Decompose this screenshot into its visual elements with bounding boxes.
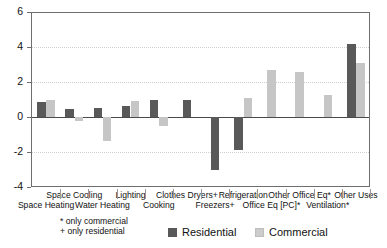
legend-swatch-residential-icon — [168, 228, 177, 237]
legend-item-residential: Residential — [168, 226, 236, 238]
x-category-label: Ventilation* — [248, 200, 387, 210]
bar-commercial — [356, 63, 365, 117]
bar-residential — [65, 109, 74, 117]
bar-commercial — [267, 70, 276, 117]
bars-layer — [0, 0, 387, 248]
x-category-divider — [342, 189, 343, 199]
x-category-divider — [370, 189, 371, 199]
bar-commercial — [103, 117, 112, 141]
footnotes: * only commercial + only residential — [60, 216, 128, 236]
legend-label-commercial: Commercial — [269, 226, 328, 238]
bar-commercial — [131, 101, 140, 117]
bar-commercial — [295, 72, 304, 118]
footnote-residential: + only residential — [60, 226, 128, 236]
footnote-commercial: * only commercial — [60, 216, 128, 226]
bar-residential — [211, 117, 220, 170]
bar-residential — [150, 100, 159, 117]
bar-commercial — [324, 95, 333, 117]
bar-residential — [234, 117, 243, 150]
bar-commercial — [46, 100, 55, 118]
bar-commercial — [75, 117, 84, 121]
legend-label-residential: Residential — [182, 226, 236, 238]
legend-item-commercial: Commercial — [255, 226, 328, 238]
bar-residential — [347, 44, 356, 118]
bar-commercial — [159, 117, 168, 126]
legend-swatch-commercial-icon — [255, 228, 264, 237]
bar-chart: 6420-2-4 Space HeatingSpace CoolingWater… — [0, 0, 387, 248]
bar-residential — [94, 108, 103, 117]
bar-residential — [183, 100, 192, 117]
bar-residential — [37, 102, 46, 117]
bar-commercial — [244, 98, 253, 117]
bar-residential — [122, 106, 131, 117]
